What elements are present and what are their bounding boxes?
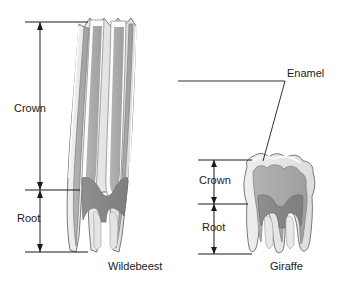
giraffe-arrow-root-top <box>211 204 217 211</box>
label-crown-wildebeest: Crown <box>14 103 46 114</box>
label-enamel: Enamel <box>287 68 324 79</box>
diagram-canvas <box>0 0 350 284</box>
wildebeest-arrow-crown-bottom <box>37 182 43 190</box>
label-root-giraffe: Root <box>202 222 225 233</box>
giraffe-arrow-crown-top <box>211 160 217 167</box>
wildebeest-arrow-root-bottom <box>37 244 43 252</box>
giraffe-arrow-crown-bottom <box>211 197 217 204</box>
tooth-comparison-figure: Crown Root Crown Root Enamel Wildebeest … <box>0 0 350 284</box>
label-specimen-wildebeest: Wildebeest <box>108 261 162 272</box>
enamel-leader-giraffe <box>263 81 285 161</box>
wildebeest-root-channel-2 <box>110 212 119 250</box>
label-specimen-giraffe: Giraffe <box>270 261 303 272</box>
wildebeest-tooth-illustration <box>67 18 136 252</box>
enamel-callout-leaders <box>178 81 285 161</box>
label-crown-giraffe: Crown <box>199 175 231 186</box>
giraffe-root-canal-left <box>265 216 274 249</box>
giraffe-arrow-root-bottom <box>211 247 217 254</box>
wildebeest-arrow-root-top <box>37 190 43 198</box>
wildebeest-arrow-crown-top <box>37 22 43 30</box>
label-root-wildebeest: Root <box>17 213 40 224</box>
wildebeest-root-channel <box>93 212 101 250</box>
giraffe-root-canal-right <box>286 216 294 249</box>
giraffe-tooth-illustration <box>244 153 315 252</box>
